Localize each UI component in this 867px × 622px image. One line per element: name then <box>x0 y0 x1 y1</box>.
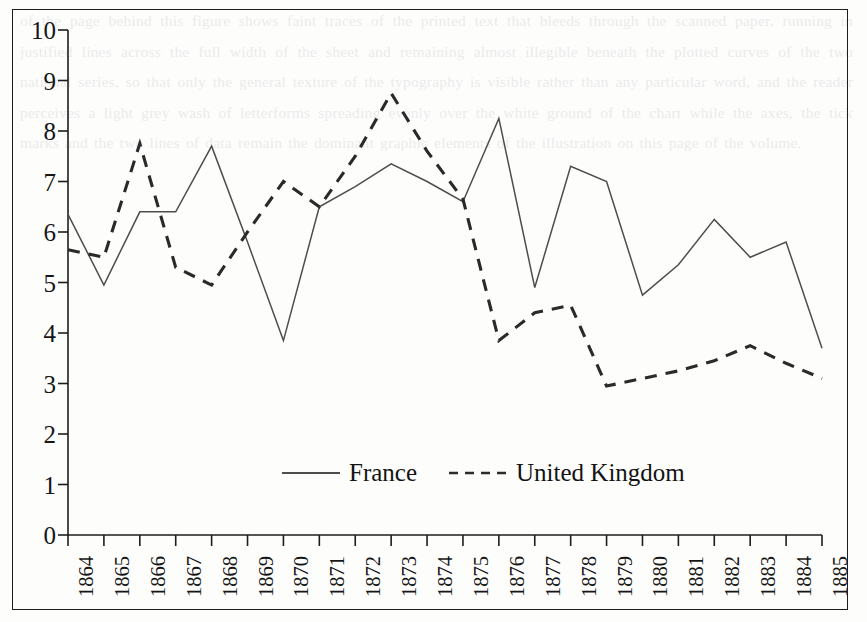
y-tick-label: 4 <box>14 321 56 346</box>
x-tick-label: 1865 <box>112 556 133 597</box>
x-tick-label: 1874 <box>435 556 456 597</box>
x-tick-label: 1870 <box>291 556 312 597</box>
series-line-france <box>68 118 822 348</box>
x-tick-label: 1877 <box>543 556 564 597</box>
x-tick-label: 1864 <box>76 556 97 597</box>
y-tick-label: 3 <box>14 372 56 397</box>
legend-entry-united-kingdom: United Kingdom <box>449 460 685 485</box>
y-tick-label: 8 <box>14 119 56 144</box>
y-tick-label: 0 <box>14 523 56 548</box>
x-tick-label: 1869 <box>256 556 277 597</box>
x-tick-label: 1875 <box>471 556 492 597</box>
y-tick-label: 10 <box>14 18 56 43</box>
data-series-group <box>68 93 822 386</box>
series-line-united-kingdom <box>68 93 822 386</box>
legend-label-france: France <box>349 460 417 485</box>
x-axis-ticks <box>68 535 822 546</box>
y-tick-label: 9 <box>14 69 56 94</box>
y-tick-label: 2 <box>14 422 56 447</box>
x-tick-label: 1883 <box>758 556 779 597</box>
legend-swatch-dashed <box>449 467 507 479</box>
y-axis-ticks <box>58 30 68 535</box>
x-tick-label: 1885 <box>830 556 851 597</box>
legend-label-united-kingdom: United Kingdom <box>516 460 685 485</box>
x-tick-label: 1878 <box>579 556 600 597</box>
x-tick-label: 1882 <box>722 556 743 597</box>
x-tick-label: 1872 <box>363 556 384 597</box>
x-tick-label: 1881 <box>686 556 707 597</box>
x-tick-label: 1868 <box>220 556 241 597</box>
x-tick-label: 1871 <box>327 556 348 597</box>
x-tick-label: 1867 <box>184 556 205 597</box>
plot-area <box>0 0 867 622</box>
y-tick-label: 7 <box>14 170 56 195</box>
chart-figure: of the page behind this figure shows fai… <box>0 0 867 622</box>
chart-legend: France United Kingdom <box>282 460 685 485</box>
x-tick-label: 1866 <box>148 556 169 597</box>
legend-entry-france: France <box>282 460 417 485</box>
legend-swatch-solid <box>282 467 340 479</box>
x-tick-label: 1880 <box>650 556 671 597</box>
y-tick-label: 6 <box>14 220 56 245</box>
x-tick-label: 1873 <box>399 556 420 597</box>
x-tick-label: 1884 <box>794 556 815 597</box>
x-tick-label: 1879 <box>615 556 636 597</box>
y-tick-label: 5 <box>14 271 56 296</box>
y-tick-label: 1 <box>14 473 56 498</box>
x-tick-label: 1876 <box>507 556 528 597</box>
